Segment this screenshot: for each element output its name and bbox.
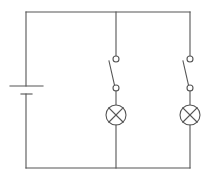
switch-terminal-top [187,56,193,62]
switch-icon [109,56,119,91]
switch-terminal-top [113,56,119,62]
lamp-icon [106,105,126,125]
wires [26,12,190,168]
lamp-icon [180,105,200,125]
switch-terminal-bottom [187,85,193,91]
battery-icon [10,86,43,94]
branch-1 [106,12,126,168]
switch-lever [109,61,115,85]
switch-terminal-bottom [113,85,119,91]
branch-2 [180,12,200,168]
switch-lever [183,61,189,85]
circuit-diagram [0,0,212,181]
switch-icon [183,56,193,91]
